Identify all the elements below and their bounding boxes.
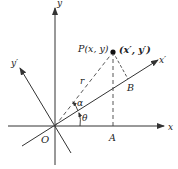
label-P: P(x, y) — [77, 43, 109, 54]
label-x: x — [168, 122, 173, 132]
rotation-diagram: y x x′ y′ O P(x, y) (x′, y′) r α θ A B — [0, 0, 178, 169]
theta-arc — [79, 113, 80, 126]
label-x-prime: x′ — [159, 55, 166, 65]
label-alpha: α — [77, 98, 83, 108]
label-theta: θ — [82, 113, 88, 123]
perpendicular-PB — [113, 52, 128, 79]
label-y: y — [56, 0, 63, 8]
label-B: B — [126, 82, 134, 93]
label-origin: O — [41, 134, 49, 145]
diagram-canvas: y x x′ y′ O P(x, y) (x′, y′) r α θ A B — [0, 0, 178, 169]
point-P — [110, 49, 115, 54]
label-y-prime: y′ — [10, 58, 18, 68]
label-P-prime: (x′, y′) — [119, 44, 151, 56]
label-r: r — [80, 76, 85, 86]
label-A: A — [108, 132, 116, 143]
